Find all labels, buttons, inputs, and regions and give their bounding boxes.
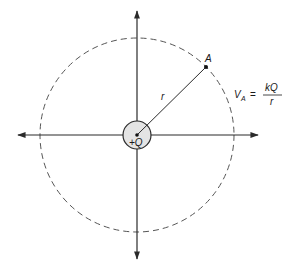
- radius-line: [137, 67, 206, 135]
- formula-subscript-a: A: [240, 95, 246, 102]
- formula-numerator: kQ: [265, 82, 278, 93]
- radius-label: r: [161, 91, 165, 102]
- formula-equals: =: [250, 89, 256, 100]
- point-a-label: A: [204, 53, 212, 64]
- formula-denominator: r: [270, 96, 274, 107]
- potential-formula: V A = kQ r: [234, 82, 282, 107]
- potential-diagram: +Q A r V A = kQ r: [0, 0, 286, 269]
- charge-label: +Q: [129, 137, 143, 148]
- point-a-dot: [204, 65, 208, 69]
